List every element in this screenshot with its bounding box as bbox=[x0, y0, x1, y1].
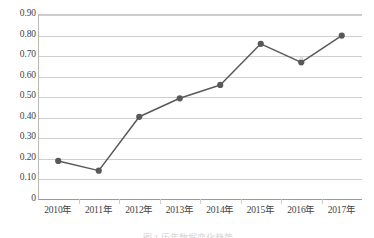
data-point-marker bbox=[55, 158, 61, 164]
x-axis-tick bbox=[241, 199, 242, 204]
x-axis-tick bbox=[160, 199, 161, 204]
x-axis-tick bbox=[281, 199, 282, 204]
line-chart-figure: 0.900.800.700.600.500.400.300.200.100 20… bbox=[0, 0, 374, 238]
data-point-marker bbox=[136, 114, 142, 120]
data-point-marker bbox=[96, 168, 102, 174]
figure-caption-clipped: 图 1 历年数据变化趋势 bbox=[90, 233, 286, 238]
data-series-layer bbox=[0, 0, 374, 238]
data-point-marker bbox=[339, 32, 345, 38]
data-point-marker bbox=[217, 82, 223, 88]
x-axis-tick bbox=[322, 199, 323, 204]
x-axis-tick bbox=[200, 199, 201, 204]
data-point-marker bbox=[258, 41, 264, 47]
x-axis-tick bbox=[119, 199, 120, 204]
data-point-marker bbox=[298, 59, 304, 65]
scan-artifact-speck bbox=[300, 56, 303, 60]
x-axis-tick bbox=[79, 199, 80, 204]
data-point-marker bbox=[177, 95, 183, 101]
